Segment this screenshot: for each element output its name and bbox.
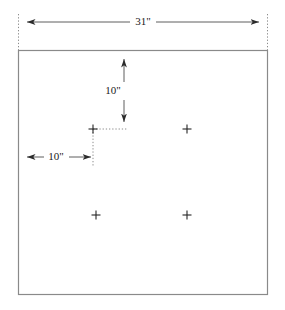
panel-outline [19,51,268,295]
hole-offset-left-label: 10" [48,150,64,162]
hole-offset-top-label: 10" [105,84,121,96]
drawing-canvas: 31" 10" 10" [0,0,285,310]
overall-width-label: 31" [135,15,151,27]
dimension-drawing: 31" 10" 10" [0,0,285,310]
